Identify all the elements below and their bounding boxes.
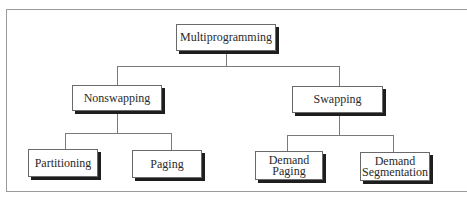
node-label: Partitioning bbox=[35, 158, 92, 169]
connector-nonswapping-bar bbox=[65, 133, 172, 134]
node-demand-segmentation: Demand Segmentation bbox=[360, 152, 430, 181]
connector-root-bar bbox=[117, 66, 340, 67]
connector-root-stem bbox=[226, 51, 227, 67]
connector-to-nonswapping bbox=[117, 66, 118, 85]
node-label: Swapping bbox=[314, 94, 362, 105]
node-label: Paging bbox=[150, 159, 183, 170]
connector-to-partitioning bbox=[65, 133, 66, 149]
connector-swapping-stem bbox=[339, 113, 340, 135]
node-swapping: Swapping bbox=[292, 86, 383, 113]
connector-nonswapping-stem bbox=[117, 111, 118, 133]
node-demand-paging: Demand Paging bbox=[255, 151, 323, 180]
node-partitioning: Partitioning bbox=[28, 149, 98, 177]
node-label-line2: Segmentation bbox=[362, 167, 428, 178]
node-label-line2: Paging bbox=[272, 166, 305, 177]
node-nonswapping: Nonswapping bbox=[72, 85, 162, 111]
connector-to-demand-segmentation bbox=[393, 135, 394, 152]
connector-to-paging bbox=[171, 133, 172, 150]
connector-swapping-bar bbox=[287, 135, 394, 136]
connector-to-demand-paging bbox=[287, 135, 288, 151]
node-multiprogramming: Multiprogramming bbox=[176, 24, 276, 51]
node-label: Multiprogramming bbox=[180, 32, 272, 43]
connector-to-swapping bbox=[339, 66, 340, 86]
node-paging: Paging bbox=[132, 150, 202, 178]
node-label: Nonswapping bbox=[84, 93, 151, 104]
